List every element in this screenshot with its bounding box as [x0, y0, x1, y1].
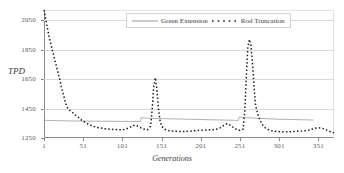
legend-entry-rod-truncation: Rod Truncation	[212, 17, 285, 25]
y-axis-tick-label: 1850	[2, 46, 36, 54]
x-axis-tick-mark	[240, 138, 241, 141]
y-axis-tick-label: 1650	[2, 75, 36, 83]
chart-legend: Green Extension Rod Truncation	[126, 13, 291, 28]
x-axis-tick-label: 51	[79, 142, 86, 150]
y-axis-tick-label: 1250	[2, 134, 36, 142]
x-axis-tick-label: 101	[117, 142, 128, 150]
chart-figure: TPD 20501850165014501250 151101151201251…	[0, 0, 344, 173]
x-axis-tick-label: 201	[195, 142, 206, 150]
y-axis-tick-label: 1450	[2, 105, 36, 113]
x-axis-tick-mark	[83, 138, 84, 141]
x-axis-tick-mark	[201, 138, 202, 141]
x-axis-tick-label: 151	[156, 142, 167, 150]
solid-line-icon	[132, 18, 158, 24]
legend-entry-green-extension: Green Extension	[132, 17, 208, 25]
x-axis-title: Generations	[0, 154, 344, 163]
x-axis-tick-mark	[279, 138, 280, 141]
legend-label-green-extension: Green Extension	[161, 17, 208, 25]
series-lines	[44, 10, 334, 138]
series-line	[44, 10, 334, 133]
x-axis-tick-mark	[318, 138, 319, 141]
x-axis-tick-label: 1	[42, 142, 46, 150]
x-axis-tick-label: 301	[274, 142, 285, 150]
legend-label-rod-truncation: Rod Truncation	[241, 17, 285, 25]
plot-area	[44, 10, 334, 138]
y-axis-tick-label: 2050	[2, 16, 36, 24]
x-axis-tick-mark	[44, 138, 45, 141]
x-axis-tick-label: 351	[313, 142, 324, 150]
x-axis-tick-mark	[162, 138, 163, 141]
series-line	[44, 117, 314, 121]
dotted-line-icon	[212, 18, 238, 24]
x-axis-tick-mark	[122, 138, 123, 141]
x-axis-tick-label: 251	[234, 142, 245, 150]
